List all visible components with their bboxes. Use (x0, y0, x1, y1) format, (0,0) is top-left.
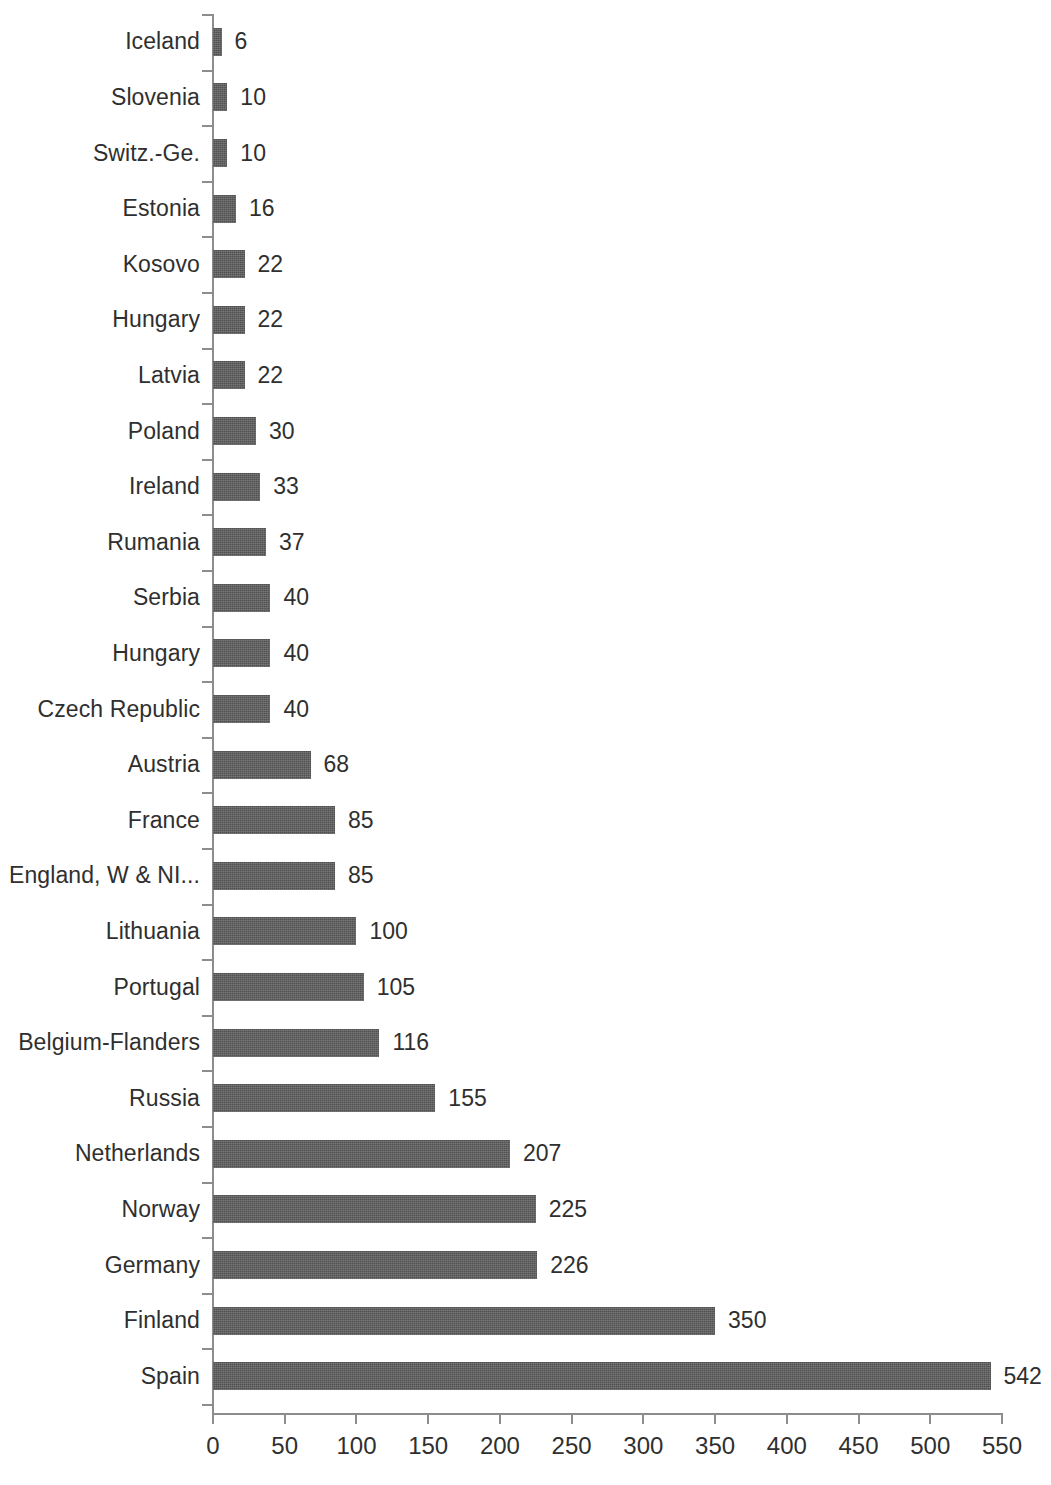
x-axis-tick-label: 150 (408, 1434, 448, 1458)
x-axis-tick (499, 1413, 501, 1424)
y-axis-tick (202, 848, 213, 850)
category-label: Finland (0, 1309, 200, 1332)
bar-row: Spain542 (0, 1351, 1051, 1401)
y-axis-tick (202, 1015, 213, 1017)
bar-value-label: 542 (1004, 1365, 1042, 1388)
category-label: Germany (0, 1254, 200, 1277)
bar-value-label: 85 (348, 809, 374, 832)
bar-value-label: 155 (448, 1087, 486, 1110)
bar-group: 40 (213, 639, 309, 667)
bar-row: Estonia16 (0, 184, 1051, 234)
bar (213, 139, 227, 167)
y-axis-tick (202, 14, 213, 16)
bar-group: 542 (213, 1362, 1042, 1390)
bar-value-label: 85 (348, 864, 374, 887)
bar (213, 1362, 991, 1390)
x-axis-tick-label: 350 (695, 1434, 735, 1458)
bar-value-label: 22 (258, 308, 284, 331)
y-axis-tick (202, 904, 213, 906)
x-axis-tick (714, 1413, 716, 1424)
bar-group: 40 (213, 584, 309, 612)
bar-chart: Iceland6Slovenia10Switz.-Ge.10Estonia16K… (0, 0, 1051, 1485)
bar-group: 100 (213, 917, 408, 945)
y-axis-tick (202, 626, 213, 628)
bar-value-label: 33 (273, 475, 299, 498)
y-axis-tick (202, 1348, 213, 1350)
bar-group: 10 (213, 139, 266, 167)
y-axis-tick (202, 1070, 213, 1072)
bar (213, 862, 335, 890)
bar-group: 85 (213, 806, 374, 834)
bar (213, 528, 266, 556)
bar-row: Germany226 (0, 1240, 1051, 1290)
bar (213, 1140, 510, 1168)
x-axis-line (212, 1413, 1003, 1415)
bar-row: Lithuania100 (0, 906, 1051, 956)
bar-value-label: 207 (523, 1142, 561, 1165)
bar-row: Norway225 (0, 1184, 1051, 1234)
bar-row: England, W & NI...85 (0, 851, 1051, 901)
bar-group: 350 (213, 1307, 766, 1335)
bar (213, 473, 260, 501)
bar-value-label: 105 (377, 976, 415, 999)
y-axis-tick (202, 681, 213, 683)
bar-row: Ireland33 (0, 462, 1051, 512)
bar-row: Portugal105 (0, 962, 1051, 1012)
bar-value-label: 226 (550, 1254, 588, 1277)
category-label: Estonia (0, 197, 200, 220)
x-axis-tick-label: 550 (982, 1434, 1022, 1458)
x-axis-tick-label: 300 (623, 1434, 663, 1458)
bar (213, 361, 245, 389)
bar-value-label: 40 (283, 586, 309, 609)
bar-value-label: 40 (283, 642, 309, 665)
bar (213, 83, 227, 111)
y-axis-tick (202, 292, 213, 294)
category-label: Poland (0, 420, 200, 443)
bar-value-label: 68 (324, 753, 350, 776)
bar-group: 68 (213, 751, 349, 779)
bar-group: 30 (213, 417, 295, 445)
bar (213, 806, 335, 834)
bar-group: 85 (213, 862, 374, 890)
bar-row: France85 (0, 795, 1051, 845)
bar-row: Kosovo22 (0, 239, 1051, 289)
category-label: Norway (0, 1198, 200, 1221)
y-axis-tick (202, 570, 213, 572)
y-axis-tick (202, 1404, 213, 1406)
y-axis-tick (202, 737, 213, 739)
x-axis-tick-label: 0 (206, 1434, 219, 1458)
bar-row: Finland350 (0, 1296, 1051, 1346)
bar (213, 195, 236, 223)
x-axis-tick-label: 400 (767, 1434, 807, 1458)
bar-group: 22 (213, 361, 283, 389)
bar (213, 584, 270, 612)
bar-value-label: 10 (240, 86, 266, 109)
bar-group: 155 (213, 1084, 487, 1112)
bar-group: 37 (213, 528, 305, 556)
bar (213, 1084, 435, 1112)
category-label: Hungary (0, 308, 200, 331)
bar-value-label: 16 (249, 197, 275, 220)
bar-row: Czech Republic40 (0, 684, 1051, 734)
category-label: Russia (0, 1087, 200, 1110)
x-axis-tick-label: 250 (552, 1434, 592, 1458)
category-label: Hungary (0, 642, 200, 665)
x-axis-tick-label: 50 (271, 1434, 298, 1458)
y-axis-tick (202, 236, 213, 238)
bar (213, 1307, 715, 1335)
bar (213, 417, 256, 445)
x-axis-tick (571, 1413, 573, 1424)
category-label: Iceland (0, 30, 200, 53)
bar (213, 695, 270, 723)
bar-value-label: 350 (728, 1309, 766, 1332)
bar-value-label: 10 (240, 142, 266, 165)
bar (213, 28, 222, 56)
y-axis-tick (202, 514, 213, 516)
y-axis-tick (202, 70, 213, 72)
category-label: Ireland (0, 475, 200, 498)
x-axis-tick-label: 200 (480, 1434, 520, 1458)
bar-row: Belgium-Flanders116 (0, 1018, 1051, 1068)
category-label: Lithuania (0, 920, 200, 943)
x-axis-tick (858, 1413, 860, 1424)
bar-value-label: 6 (235, 30, 248, 53)
